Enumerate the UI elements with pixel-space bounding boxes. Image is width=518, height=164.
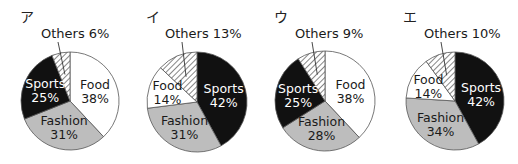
slice-value-food: 14% [154,92,182,107]
slice-label-sports: Sports [461,80,501,95]
chart-label: ウ [274,9,288,25]
slice-value-food: 38% [337,91,365,106]
slice-value-sports: 25% [284,95,312,110]
slice-label-others: Others 6% [41,26,109,41]
slice-label-others: Others 9% [295,26,363,41]
pie-chart-4: エSports42%Fashion34%Food14%Others 10% [403,9,504,150]
slice-value-fashion: 31% [50,127,78,142]
slice-label-sports: Sports [278,81,318,96]
pie-chart-2: イSports42%Fashion31%Food14%Others 13% [146,9,247,152]
pie-charts: アFood38%Fashion31%Sports25%Others 6%イSpo… [0,0,518,164]
pie-chart-1: アFood38%Fashion31%Sports25%Others 6% [20,9,119,150]
slice-label-food: Food [336,77,366,92]
slice-label-food: Food [413,72,443,87]
chart-label: ア [20,9,34,25]
slice-value-fashion: 28% [308,128,336,143]
slice-label-others: Others 10% [424,26,501,41]
slice-label-fashion: Fashion [417,110,464,125]
slice-label-others: Others 13% [165,26,242,41]
pie-chart-3: ウFood38%Fashion28%Sports25%Others 9% [274,9,375,151]
slice-value-sports: 42% [210,95,238,110]
slice-value-sports: 42% [467,94,495,109]
slice-label-food: Food [80,77,110,92]
slice-label-sports: Sports [25,76,65,91]
slice-value-food: 38% [81,91,109,106]
slice-value-fashion: 31% [171,127,199,142]
slice-value-food: 14% [414,86,442,101]
slice-label-sports: Sports [204,81,244,96]
slice-label-fashion: Fashion [298,114,345,129]
slice-label-fashion: Fashion [41,113,88,128]
chart-label: イ [146,9,160,25]
slice-label-fashion: Fashion [161,113,208,128]
slice-value-fashion: 34% [427,124,455,139]
chart-label: エ [403,9,417,25]
slice-label-food: Food [153,78,183,93]
slice-value-sports: 25% [31,90,59,105]
